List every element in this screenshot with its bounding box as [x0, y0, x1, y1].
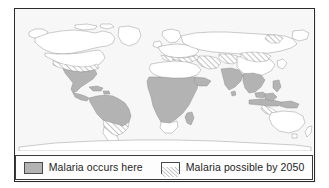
legend-label-occurs: Malaria occurs here [49, 162, 143, 173]
world-map-svg [15, 9, 313, 151]
world-map [15, 9, 313, 151]
region-occurs-sri-lanka [231, 91, 236, 96]
legend-entry-possible: Malaria possible by 2050 [161, 162, 305, 174]
figure-root: Malaria occurs here Malaria possible by … [0, 0, 329, 188]
hatch-swatch-icon [161, 162, 180, 174]
figure-frame: Malaria occurs here Malaria possible by … [14, 8, 315, 182]
map-legend: Malaria occurs here Malaria possible by … [15, 155, 313, 180]
region-occurs-hispaniola [103, 91, 110, 94]
legend-label-possible: Malaria possible by 2050 [186, 162, 305, 173]
legend-entry-occurs: Malaria occurs here [24, 162, 143, 174]
solid-swatch-icon [24, 162, 43, 174]
land-tasmania [292, 134, 297, 138]
